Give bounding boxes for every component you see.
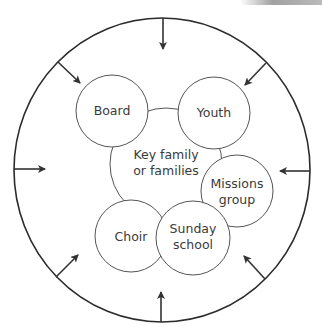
- group-board: Board: [76, 75, 148, 147]
- arrow-top-right-icon: [245, 63, 266, 85]
- missions-label-line1: Missions: [211, 176, 264, 191]
- missions-label-line2: group: [219, 192, 255, 207]
- youth-label: Youth: [196, 105, 231, 120]
- arrow-top-left-icon: [58, 62, 80, 83]
- group-youth: Youth: [178, 77, 250, 149]
- sunday-school-label-line1: Sunday: [170, 221, 217, 236]
- board-label: Board: [94, 103, 131, 118]
- key-family-label-line2: or families: [133, 163, 199, 178]
- sunday-school-label-line2: school: [173, 237, 213, 252]
- key-family-label-line1: Key family: [133, 147, 199, 162]
- group-sunday-school: Sunday school: [156, 201, 230, 275]
- family-system-diagram: Board Youth Missions group Choir Sunday …: [0, 0, 322, 331]
- arrow-bottom-left-icon: [56, 255, 78, 277]
- choir-label: Choir: [115, 229, 149, 244]
- arrow-bottom-right-icon: [244, 256, 265, 279]
